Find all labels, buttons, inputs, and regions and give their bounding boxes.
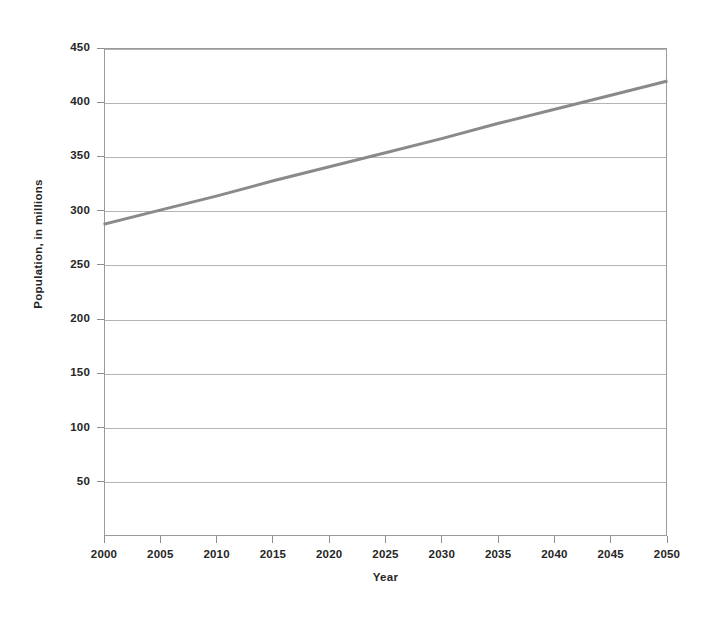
x-tick-label: 2020 <box>316 549 342 561</box>
x-tick-mark <box>554 536 555 543</box>
y-tick-label: 350 <box>0 150 90 162</box>
y-axis-title: Population, in millions <box>30 0 46 488</box>
x-tick-mark <box>329 536 330 543</box>
x-tick-label: 2030 <box>429 549 455 561</box>
x-tick-label: 2045 <box>597 549 623 561</box>
y-tick-label: 450 <box>0 42 90 54</box>
x-tick-label: 2025 <box>372 549 398 561</box>
y-tick-label: 250 <box>0 259 90 271</box>
x-tick-label: 2000 <box>91 549 117 561</box>
x-tick-label: 2010 <box>203 549 229 561</box>
x-tick-mark <box>498 536 499 543</box>
x-tick-label: 2015 <box>260 549 286 561</box>
y-tick-mark <box>97 210 104 211</box>
y-tick-mark <box>97 481 104 482</box>
x-tick-label: 2035 <box>485 549 511 561</box>
plot-area <box>104 48 667 536</box>
y-axis-title-text: Population, in millions <box>32 179 44 309</box>
line-chart: Population, in millions 5010015020025030… <box>0 0 718 622</box>
x-tick-label: 2040 <box>541 549 567 561</box>
y-tick-mark <box>97 264 104 265</box>
x-tick-mark <box>216 536 217 543</box>
x-axis-title: Year <box>104 571 667 583</box>
x-tick-mark <box>610 536 611 543</box>
x-tick-label: 2050 <box>654 549 680 561</box>
y-tick-mark <box>97 156 104 157</box>
y-tick-label: 200 <box>0 313 90 325</box>
x-tick-mark <box>272 536 273 543</box>
y-tick-mark <box>97 48 104 49</box>
x-tick-mark <box>160 536 161 543</box>
x-tick-mark <box>104 536 105 543</box>
y-tick-mark <box>97 102 104 103</box>
y-tick-mark <box>97 373 104 374</box>
y-tick-label: 100 <box>0 422 90 434</box>
population-line <box>105 81 666 224</box>
x-tick-mark <box>441 536 442 543</box>
y-tick-label: 50 <box>0 476 90 488</box>
y-tick-mark <box>97 319 104 320</box>
y-tick-label: 300 <box>0 205 90 217</box>
x-tick-mark <box>385 536 386 543</box>
y-tick-label: 400 <box>0 96 90 108</box>
y-tick-mark <box>97 427 104 428</box>
data-series-layer <box>105 49 666 535</box>
y-tick-label: 150 <box>0 367 90 379</box>
x-tick-label: 2005 <box>147 549 173 561</box>
x-tick-mark <box>667 536 668 543</box>
